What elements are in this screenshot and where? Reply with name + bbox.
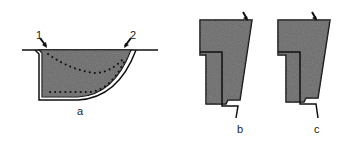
caption-b: b [237, 124, 243, 135]
marker-2-label: 2 [130, 30, 136, 41]
marker-1-label: 1 [36, 30, 42, 41]
caption-c: c [314, 124, 320, 135]
diagram-canvas [0, 0, 352, 142]
panel-b [200, 12, 252, 118]
caption-a: a [77, 106, 83, 117]
panel-a [22, 38, 158, 100]
panel-c [278, 12, 330, 118]
